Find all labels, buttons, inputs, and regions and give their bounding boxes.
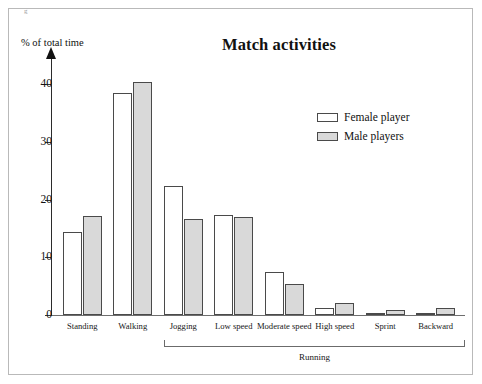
bar-walking-female — [113, 93, 132, 315]
legend-label-male: Male players — [344, 128, 404, 144]
bar-low-speed-female — [214, 215, 233, 315]
legend-swatch-female-icon — [317, 113, 338, 122]
running-group-label: Running — [164, 352, 465, 363]
y-axis-tick-label: 40 — [22, 78, 52, 90]
y-axis-tick: 40 — [9, 84, 52, 85]
legend-label-female: Female player — [344, 109, 409, 125]
bar-high-speed-male — [335, 303, 354, 315]
y-axis-tick-label: 0 — [22, 309, 52, 321]
y-axis-tick: 0 — [9, 315, 52, 316]
bar-backward-female — [416, 313, 435, 315]
bar-standing-female — [63, 232, 82, 315]
chart-legend: Female player Male players — [317, 109, 409, 147]
y-axis-tick: 30 — [9, 142, 52, 143]
y-axis-arrow-icon — [46, 47, 56, 59]
bar-moderate-speed-female — [265, 272, 284, 315]
legend-item-female: Female player — [317, 109, 409, 125]
x-axis-line — [51, 315, 465, 316]
y-axis-tick-label: 10 — [22, 251, 52, 263]
running-group-bracket — [164, 340, 465, 347]
bar-walking-male — [133, 82, 152, 315]
bar-backward-male — [436, 308, 455, 316]
legend-swatch-male-icon — [317, 132, 338, 141]
bar-moderate-speed-male — [285, 284, 304, 315]
legend-item-male: Male players — [317, 128, 409, 144]
bar-sprint-female — [366, 313, 385, 315]
bar-standing-male — [83, 216, 102, 315]
y-axis-tick-label: 30 — [22, 136, 52, 148]
bar-jogging-female — [164, 186, 183, 315]
x-axis-label-backward: Backward — [391, 321, 481, 331]
bar-sprint-male — [386, 310, 405, 315]
bar-low-speed-male — [234, 217, 253, 315]
y-axis-tick: 20 — [9, 200, 52, 201]
bar-jogging-male — [184, 219, 203, 315]
y-axis-line — [51, 57, 52, 316]
bar-high-speed-female — [315, 308, 334, 315]
y-axis-tick: 10 — [9, 257, 52, 258]
y-axis-tick-label: 20 — [22, 194, 52, 206]
bar-chart: Match activities % of total time 0102030… — [9, 9, 474, 376]
figure-panel: g Match activities % of total time 01020… — [8, 8, 473, 375]
